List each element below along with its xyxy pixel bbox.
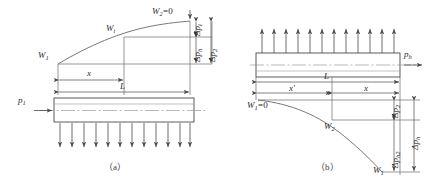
panel-a-drawing (34, 10, 212, 147)
beam-rect-a (54, 98, 194, 122)
label-delta-ph-b: Δph (411, 137, 420, 150)
figure-drawing (0, 0, 445, 182)
label-dim-L-a: L (120, 82, 125, 91)
label-delta-ph-a: Δph (193, 49, 202, 62)
figure-container: W2=0 Wi W1 Δpi Δph Δp2 x L p1 （a） ph L x… (0, 0, 445, 182)
label-delta-p2-b: Δp2 (391, 105, 400, 118)
label-W1-zero-b: W1=0 (247, 101, 268, 110)
load-arrows-b (262, 29, 394, 53)
label-delta-p2-a: Δp2 (208, 49, 217, 62)
label-pressure-p1-a: p1 (18, 96, 26, 105)
label-delta-pi-a: Δpi (193, 24, 202, 36)
caption-a: （a） (104, 160, 126, 173)
label-W1-b: W1 (373, 166, 384, 175)
caption-b: （b） (316, 160, 339, 173)
label-dim-L-b: L (324, 72, 329, 81)
label-W2-zero-a: W2=0 (152, 7, 173, 16)
load-arrows-a (60, 123, 190, 147)
label-W2-b: W2 (324, 122, 335, 131)
label-dim-x-a: x (87, 69, 91, 78)
label-pressure-ph-b: ph (404, 50, 412, 59)
label-Wi-a: Wi (106, 24, 116, 33)
label-dim-xprime-b: x' (289, 84, 295, 93)
label-W1-a: W1 (38, 51, 49, 60)
label-dim-x-b: x (364, 84, 368, 93)
label-delta-ph2-b: Δph2 (391, 151, 400, 168)
